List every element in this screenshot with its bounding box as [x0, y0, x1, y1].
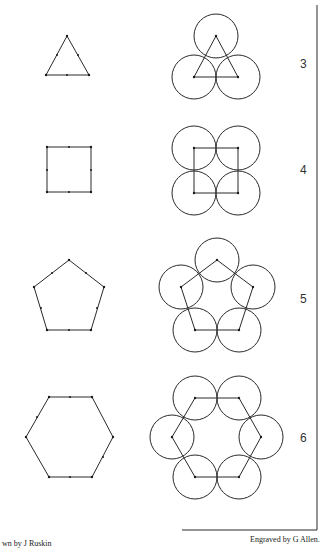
- pentagon-circle-construction: [159, 238, 275, 352]
- plate-drawing: [0, 0, 325, 554]
- figure-number-5: 5: [300, 292, 307, 306]
- credit-drawn-by: wn by J Ruskin: [2, 539, 52, 548]
- pentagon-figure: [34, 260, 104, 330]
- vertex-dots: [25, 35, 262, 478]
- square-circle-construction: [172, 126, 260, 215]
- figure-number-3: 3: [300, 57, 307, 71]
- figure-number-4: 4: [300, 163, 307, 177]
- hexagon-circle-construction: [150, 376, 283, 499]
- triangle-figure: [46, 36, 89, 75]
- square-figure: [47, 147, 91, 192]
- hexagon-figure: [26, 397, 113, 477]
- triangle-circle-construction: [172, 14, 260, 99]
- credit-engraved-by: Engraved by G Allen.: [250, 535, 320, 544]
- figure-number-6: 6: [300, 431, 307, 445]
